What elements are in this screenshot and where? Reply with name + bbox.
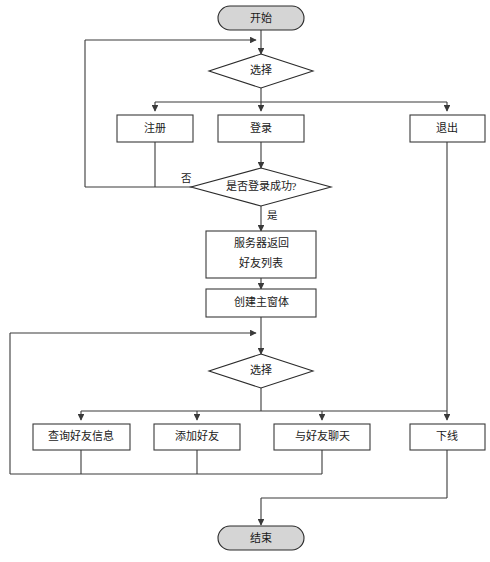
node-login[interactable]: 登录 [218, 115, 304, 142]
chat-with-friend-label: 与好友聊天 [295, 429, 350, 442]
node-end[interactable]: 结束 [218, 526, 304, 550]
start-label: 开始 [250, 11, 272, 24]
node-choice-main[interactable]: 选择 [209, 354, 313, 388]
choice-main-label: 选择 [250, 363, 272, 376]
server-return-label-line2: 好友列表 [239, 256, 283, 269]
node-offline[interactable]: 下线 [410, 424, 485, 450]
flowchart-canvas: 开始 选择 注册 登录 退出 是否登录成功? 否 是 [0, 0, 490, 562]
create-main-window-label: 创建主窗体 [234, 295, 289, 308]
query-friend-info-label: 查询好友信息 [48, 429, 114, 442]
edge-label-yes: 是 [267, 210, 278, 221]
node-register[interactable]: 注册 [117, 115, 193, 142]
node-choice-top[interactable]: 选择 [209, 54, 313, 88]
node-server-return[interactable]: 服务器返回 好友列表 [206, 231, 316, 278]
edge-label-no: 否 [181, 173, 192, 184]
login-check-label: 是否登录成功? [226, 179, 297, 192]
quit-label: 退出 [436, 121, 458, 134]
node-quit[interactable]: 退出 [410, 115, 485, 142]
register-label: 注册 [144, 121, 166, 134]
node-start[interactable]: 开始 [218, 6, 304, 30]
node-login-check[interactable]: 是否登录成功? [191, 168, 331, 206]
choice-top-label: 选择 [250, 63, 272, 76]
node-add-friend[interactable]: 添加好友 [154, 424, 240, 450]
node-create-main-window[interactable]: 创建主窗体 [206, 289, 316, 317]
add-friend-label: 添加好友 [175, 429, 219, 442]
end-label: 结束 [250, 532, 272, 544]
flowchart-svg: 开始 选择 注册 登录 退出 是否登录成功? 否 是 [0, 0, 490, 562]
server-return-label-line1: 服务器返回 [234, 237, 289, 249]
login-label: 登录 [250, 121, 272, 134]
offline-label: 下线 [436, 429, 458, 442]
node-query-friend-info[interactable]: 查询好友信息 [33, 424, 130, 450]
node-chat-with-friend[interactable]: 与好友聊天 [274, 424, 370, 450]
